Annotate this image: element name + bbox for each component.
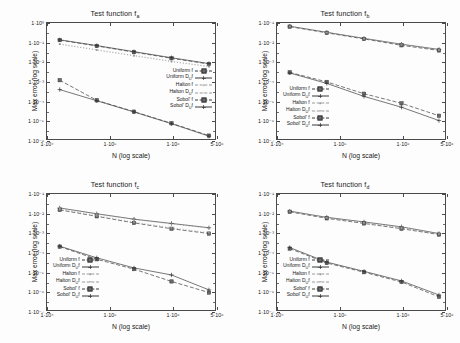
x-tick-mark: [217, 136, 218, 139]
legend-key-marker: [202, 105, 206, 109]
legend-item-key: [312, 285, 329, 292]
x-tick-label: 5·10⁶: [440, 141, 453, 147]
legend-key-marker: [318, 265, 322, 269]
legend-b: Uniform fUniform DUfHalton fHalton DUfSo…: [283, 85, 329, 129]
legend-item-key: [195, 74, 212, 81]
legend-key-marker: [318, 286, 323, 291]
panel-title-text: Test function f: [91, 9, 137, 18]
legend-key-marker: [88, 294, 92, 298]
series-halton-d-f: [59, 43, 210, 67]
legend-key-marker: [88, 286, 93, 291]
y-tick-label: 1·10⁻¹: [258, 191, 274, 197]
x-tick-label: 1·10⁴: [270, 141, 283, 147]
x-tick-label: 5·10⁶: [440, 312, 453, 318]
x-tick-label: 1·10⁴: [40, 141, 53, 147]
legend-item-key: [312, 263, 329, 270]
legend-subscript: U: [189, 106, 192, 110]
legend-key-marker: [318, 94, 322, 98]
legend-item-key: [312, 122, 329, 129]
panel-title-text: Test function f: [321, 180, 367, 189]
panel-title-d: Test function fd: [230, 180, 460, 190]
y-tick-label: 1·10⁻²: [28, 59, 44, 65]
y-tick-label: 1·10⁻⁶: [28, 289, 44, 295]
y-tick-label: 1·10⁻⁵: [258, 99, 274, 105]
legend-item-key: [195, 96, 212, 103]
chart-panel-c: Test function fcMax error (log scale)N (…: [0, 171, 230, 342]
legend-subscript: U: [189, 92, 192, 96]
x-tick-mark-top: [447, 23, 448, 26]
x-tick-label: 1·10⁵: [103, 141, 116, 147]
plot-area-a: 1·10⁰1·10⁻¹1·10⁻²1·10⁻³1·10⁻⁴1·10⁻⁵1·10⁻…: [46, 22, 216, 140]
chart-panel-a: Test function faMax error (log scale)N (…: [0, 0, 230, 171]
y-tick-label: 1·10⁻⁶: [258, 289, 274, 295]
y-axis-label-wrap-d: Max error (log scale): [240, 193, 254, 311]
legend-item-key: [312, 107, 329, 114]
y-tick-label: 1·10⁻³: [28, 79, 44, 85]
x-tick-label: 1·10⁵: [103, 312, 116, 318]
y-tick-label: 1·10⁻⁶: [258, 118, 274, 124]
panel-title-text: Test function f: [321, 9, 367, 18]
chart-panel-b: Test function fbMax error (log scale)N (…: [230, 0, 460, 171]
legend-d: Uniform fUniform DUfHalton fHalton DUfSo…: [283, 256, 329, 300]
x-tick-mark-top: [447, 194, 448, 197]
legend-subscript: U: [306, 266, 309, 270]
y-tick-label: 1·10⁻³: [258, 59, 274, 65]
legend-key-marker: [318, 257, 323, 262]
legend-key-marker: [318, 86, 323, 91]
y-tick-label: 1·10⁻²: [28, 211, 44, 217]
y-tick-label: 1·10⁻⁵: [28, 270, 44, 276]
series-halton-d-f: [289, 210, 440, 234]
plot-area-c: 1·10⁻¹1·10⁻²1·10⁻³1·10⁻⁴1·10⁻⁵1·10⁻⁶1·10…: [46, 193, 216, 311]
legend-item-key: [82, 256, 99, 263]
y-axis-label-wrap-b: Max error (log scale): [240, 22, 254, 140]
legend-item-key: [312, 114, 329, 121]
legend-item-key: [82, 293, 99, 300]
legend-subscript: U: [306, 110, 309, 114]
y-tick-label: 1·10⁰: [31, 20, 44, 26]
legend-key-marker: [88, 257, 93, 262]
legend-subscript: U: [76, 281, 79, 285]
legend-item: Sobol' DUf: [166, 103, 212, 110]
panel-title-subscript: b: [366, 13, 369, 19]
legend-item-key: [82, 285, 99, 292]
legend-subscript: U: [189, 77, 192, 81]
x-tick-label: 1·10⁴: [40, 312, 53, 318]
x-tick-mark: [447, 307, 448, 310]
chart-panel-d: Test function fdMax error (log scale)N (…: [230, 171, 460, 342]
legend-subscript: U: [76, 266, 79, 270]
panel-title-b: Test function fb: [230, 9, 460, 19]
legend-key-marker: [202, 76, 206, 80]
panel-title-subscript: a: [136, 13, 139, 19]
series-halton-d-f: [289, 25, 440, 50]
x-axis-label: N (log scale): [46, 152, 216, 159]
x-axis-label: N (log scale): [276, 152, 446, 159]
legend-item-key: [312, 85, 329, 92]
legend-item-key: [82, 271, 99, 278]
y-tick-label: 1·10⁻¹: [28, 40, 44, 46]
x-axis-label: N (log scale): [276, 323, 446, 330]
x-tick-label: 5·10⁶: [210, 312, 223, 318]
legend-key-marker: [88, 265, 92, 269]
legend-item-key: [312, 256, 329, 263]
x-tick-label: 1·10⁵: [333, 141, 346, 147]
legend-subscript: U: [76, 295, 79, 299]
panel-title-subscript: d: [366, 184, 369, 190]
y-axis-label-wrap-a: Max error (log scale): [10, 22, 24, 140]
legend-subscript: U: [306, 295, 309, 299]
panel-title-text: Test function f: [91, 180, 137, 189]
y-tick-label: 1·10⁻⁵: [28, 118, 44, 124]
legend-item-key: [82, 263, 99, 270]
legend-a: Uniform fUniform DUfHalton fHalton DUfSo…: [166, 67, 212, 111]
figure-multi-panel-convergence-plots: Test function faMax error (log scale)N (…: [0, 0, 460, 343]
legend-item: Sobol' DUf: [283, 121, 329, 128]
legend-key-marker: [318, 294, 322, 298]
x-tick-label: 1·10⁴: [270, 312, 283, 318]
legend-item-key: [82, 278, 99, 285]
x-axis-label: N (log scale): [46, 323, 216, 330]
legend-subscript: U: [306, 281, 309, 285]
legend-item-key: [312, 271, 329, 278]
legend-item-label: Sobol' DUf: [57, 291, 80, 301]
x-tick-label: 5·10⁶: [210, 141, 223, 147]
legend-item-key: [312, 100, 329, 107]
y-tick-label: 1·10⁻⁴: [258, 79, 274, 85]
